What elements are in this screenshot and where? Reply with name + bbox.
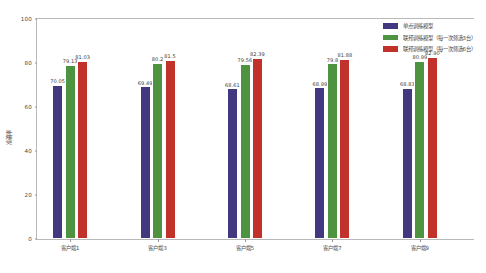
y-tick-mark	[35, 63, 38, 64]
bar-value-label: 69.49	[138, 80, 153, 86]
legend-item: 联邦训练模型（每一次筛选6台）	[382, 45, 476, 53]
x-axis-group-label: 客户端3	[148, 244, 166, 252]
bar: 80.2	[152, 63, 163, 239]
x-tick-mark	[332, 239, 333, 242]
bar-value-label: 81.5	[164, 53, 176, 59]
bar: 82.90	[427, 57, 438, 239]
bar-value-label: 81.88	[337, 52, 352, 58]
bar: 79.13	[65, 65, 76, 239]
bar-value-label: 70.05	[50, 78, 65, 84]
x-tick-mark	[70, 239, 71, 242]
bar: 80.99	[414, 61, 425, 239]
legend-item: 单点训练模型	[382, 22, 476, 30]
bar-value-label: 68.83	[400, 81, 415, 87]
x-axis-group-label: 客户端9	[411, 244, 429, 252]
y-tick-mark	[35, 151, 38, 152]
bar-value-label: 79.8	[327, 57, 339, 63]
bar: 81.03	[77, 61, 88, 239]
x-tick-mark	[158, 239, 159, 242]
legend-color-swatch	[382, 34, 399, 42]
bar-value-label: 68.99	[312, 81, 327, 87]
x-tick-mark	[420, 239, 421, 242]
legend-color-swatch	[382, 22, 399, 30]
bar: 70.05	[52, 85, 63, 239]
y-axis-label: 准确率	[5, 129, 13, 144]
legend-label: 联邦训练模型（每一次筛选3台）	[403, 34, 476, 42]
y-tick-mark	[35, 195, 38, 196]
bar: 79.56	[240, 64, 251, 239]
bar-value-label: 68.61	[225, 82, 240, 88]
legend-label: 联邦训练模型（每一次筛选6台）	[403, 45, 476, 53]
bar-value-label: 81.03	[75, 54, 90, 60]
x-tick-mark	[245, 239, 246, 242]
x-axis-group-label: 客户端5	[236, 244, 254, 252]
bar: 82.39	[252, 58, 263, 239]
y-tick-mark	[35, 107, 38, 108]
legend-item: 联邦训练模型（每一次筛选3台）	[382, 34, 476, 42]
legend-label: 单点训练模型	[403, 22, 433, 30]
y-tick-mark	[35, 239, 38, 240]
bar-value-label: 82.39	[250, 51, 265, 57]
x-axis-group-label: 客户端1	[61, 244, 79, 252]
chart-legend: 单点训练模型联邦训练模型（每一次筛选3台）联邦训练模型（每一次筛选6台）	[382, 22, 476, 53]
bar: 69.49	[140, 86, 151, 239]
bar: 81.5	[165, 60, 176, 239]
bar: 68.83	[402, 88, 413, 239]
bar-value-label: 80.2	[152, 56, 164, 62]
y-tick-mark	[35, 19, 38, 20]
legend-color-swatch	[382, 45, 399, 53]
bar: 81.88	[339, 59, 350, 239]
chart-figure: 准确率 70.0579.1381.0369.4980.281.568.6179.…	[0, 0, 486, 273]
bar-value-label: 79.56	[238, 57, 253, 63]
bar: 79.8	[327, 63, 338, 239]
x-axis-group-label: 客户端7	[323, 244, 341, 252]
bar: 68.61	[227, 88, 238, 239]
bar: 68.99	[314, 87, 325, 239]
